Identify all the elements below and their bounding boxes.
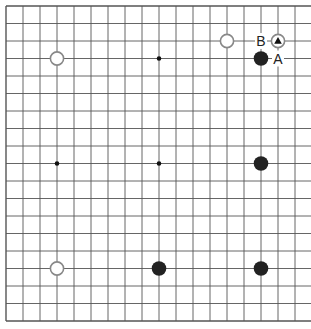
white-stone[interactable]	[271, 34, 284, 47]
black-stone[interactable]	[254, 261, 269, 276]
go-board[interactable]: BA	[0, 0, 311, 329]
point-label: B	[256, 33, 265, 49]
star-point	[157, 161, 162, 166]
white-stone[interactable]	[220, 34, 233, 47]
point-label: A	[273, 51, 283, 67]
white-stone[interactable]	[50, 52, 63, 65]
stones-layer	[50, 34, 284, 275]
black-stone[interactable]	[254, 51, 269, 66]
white-stone[interactable]	[50, 262, 63, 275]
black-stone[interactable]	[254, 156, 269, 171]
star-point	[157, 56, 162, 61]
black-stone[interactable]	[152, 261, 167, 276]
star-point	[55, 161, 60, 166]
